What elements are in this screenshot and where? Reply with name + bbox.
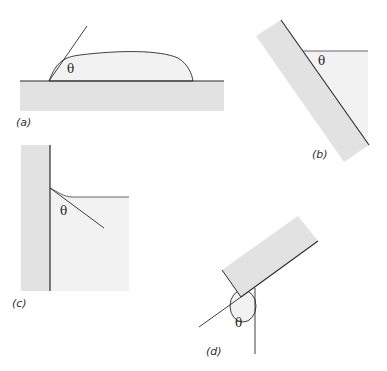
panel-c-theta: θ [60,204,67,218]
panel-b-theta: θ [318,54,325,68]
panel-d-label: (d) [206,345,222,358]
panel-a-theta: θ [67,62,74,76]
panel-b-label: (b) [312,148,328,161]
panel-b [256,20,369,162]
panel-c-label: (c) [12,297,27,310]
panel-d-slab [222,216,318,297]
panel-c-wall [21,145,50,291]
contact-angle-diagram [0,0,387,371]
panel-c [21,145,129,291]
panel-a [20,26,224,111]
panel-a-label: (a) [16,116,31,129]
panel-d-theta: θ [235,316,242,330]
panel-d [199,216,318,354]
panel-a-substrate [20,81,224,111]
